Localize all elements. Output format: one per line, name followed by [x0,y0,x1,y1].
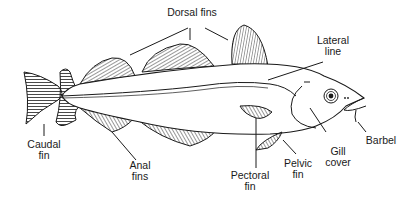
label-pelvic-fin: Pelvic fin [276,158,320,180]
label-pectoral-fin: Pectoral fin [222,170,278,192]
label-dorsal-fins: Dorsal fins [152,7,232,18]
label-barbel: Barbel [356,135,406,146]
label-lateral-line: Lateral line [308,35,358,57]
fish-anatomy-diagram: Dorsal fins Lateral line Caudal fin Anal… [0,0,412,198]
barbel-illustration [355,110,356,122]
fish-illustration [0,0,412,198]
label-gill-cover: Gill cover [316,146,360,168]
label-anal-fins: Anal fins [118,160,162,182]
label-caudal-fin: Caudal fin [20,139,68,161]
